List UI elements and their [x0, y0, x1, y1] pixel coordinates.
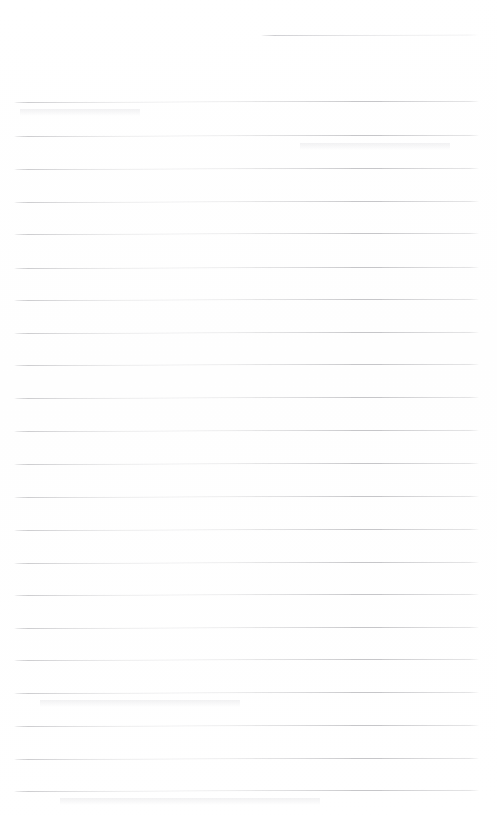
body-rule-line: [14, 659, 479, 661]
scanned-paper-sheet: [0, 0, 497, 816]
body-rule-line: [14, 529, 479, 531]
body-rule-line: [14, 135, 479, 137]
body-rule-line: [14, 430, 479, 432]
scan-smudge: [40, 700, 240, 707]
body-rule-line: [14, 562, 479, 564]
body-rule-line: [14, 790, 479, 792]
scan-smudge: [300, 143, 450, 150]
body-rule-line: [14, 233, 479, 235]
body-rule-line: [14, 201, 479, 203]
body-rule-line: [14, 168, 479, 170]
body-rule-line: [14, 397, 479, 399]
scan-smudge: [20, 109, 140, 116]
body-rule-line: [14, 758, 479, 760]
body-rule-line: [14, 463, 479, 465]
body-rule-line: [14, 101, 479, 103]
body-rule-line: [14, 496, 479, 498]
body-rule-line: [14, 332, 479, 334]
scan-smudge: [60, 798, 320, 805]
body-rule-line: [14, 692, 479, 694]
body-rule-line: [14, 594, 479, 596]
body-rule-line: [14, 725, 479, 727]
header-rule-line: [261, 34, 478, 36]
body-rule-line: [14, 267, 479, 269]
body-rule-line: [14, 299, 479, 301]
body-rule-line: [14, 364, 479, 366]
body-rule-line: [14, 627, 479, 629]
